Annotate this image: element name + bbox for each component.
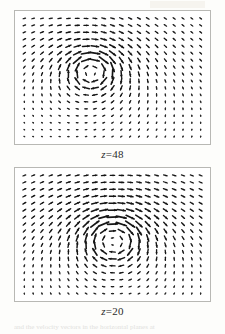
quiver-canvas-z20	[15, 168, 210, 301]
quiver-plot-z48	[14, 10, 211, 145]
figure-vector-fields: z=48 z=20 and the velocity vectors in th…	[0, 0, 225, 334]
panel-label-z20: z=20	[14, 305, 211, 317]
panel-label-value: 48	[112, 148, 123, 160]
panel-label-value: 20	[112, 305, 123, 317]
scanned-page: z=48 z=20 and the velocity vectors in th…	[0, 0, 225, 334]
figure-panel-z20: z=20	[14, 167, 211, 317]
figure-caption-fragment: and the velocity vectors in the horizont…	[14, 323, 214, 332]
quiver-plot-z20	[14, 167, 211, 302]
figure-panel-z48: z=48	[14, 10, 211, 160]
panel-label-z48: z=48	[14, 148, 211, 160]
quiver-canvas-z48	[15, 11, 210, 144]
